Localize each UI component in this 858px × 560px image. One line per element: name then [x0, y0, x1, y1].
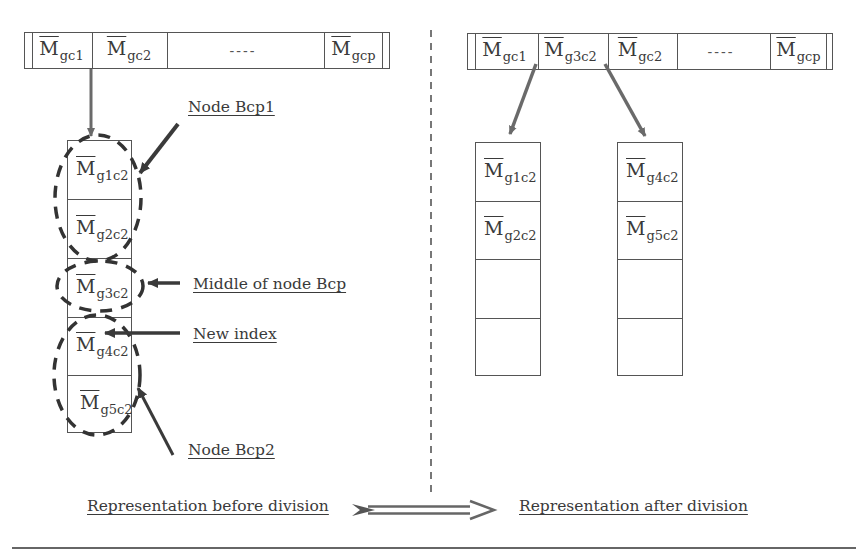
- after-right-row-2: Mg5c2: [618, 201, 682, 259]
- before-row-g5c2: Mg5c2: [68, 375, 131, 433]
- ellipsis: ----: [230, 43, 257, 59]
- before-cell-ellipsis: ----: [167, 33, 318, 68]
- after-left-row-1: Mg1c2: [476, 143, 540, 201]
- after-cell-gc1: Mgc1: [475, 34, 533, 69]
- label-new-index: New index: [193, 325, 277, 343]
- label-node-bcp2: Node Bcp2: [188, 441, 275, 459]
- after-left-row-3-empty: [476, 259, 540, 318]
- after-right-row-4-empty: [618, 318, 682, 376]
- pointer-arrow-right-node-icon: [605, 64, 645, 136]
- arrow-to-bcp2-icon: [138, 388, 173, 455]
- label-before-division: Representation before division: [87, 497, 329, 515]
- after-cell-ellipsis: ----: [677, 34, 764, 69]
- after-cell-g3c2: Mg3c2: [538, 34, 602, 69]
- arrow-to-bcp1-icon: [140, 124, 178, 173]
- before-cell-gcp: Mgcp: [324, 33, 382, 68]
- before-cell-gc2: Mgc2: [92, 33, 165, 68]
- bar-edge-left: [468, 34, 475, 69]
- after-right-row-1: Mg4c2: [618, 143, 682, 201]
- after-cell-gc2: Mgc2: [608, 34, 671, 69]
- mean-symbol: M: [107, 37, 126, 59]
- before-index-bar: Mgc1 Mgc2 ---- Mgcp: [24, 32, 390, 69]
- mean-symbol: M: [331, 37, 350, 59]
- label-after-division: Representation after division: [519, 497, 748, 515]
- after-left-row-2: Mg2c2: [476, 201, 540, 259]
- before-row-g4c2: Mg4c2: [68, 317, 131, 375]
- after-right-node: Mg4c2 Mg5c2: [617, 142, 683, 376]
- before-row-g3c2: Mg3c2: [68, 258, 131, 317]
- mean-symbol: M: [39, 37, 58, 59]
- after-right-row-3-empty: [618, 259, 682, 318]
- after-index-bar: Mgc1 Mg3c2 Mgc2 ---- Mgcp: [467, 33, 833, 70]
- before-row-g2c2: Mg2c2: [68, 199, 131, 258]
- bar-edge-right: [382, 33, 389, 68]
- bar-edge-left: [25, 33, 32, 68]
- bar-edge-right: [826, 34, 832, 69]
- after-left-row-4-empty: [476, 318, 540, 376]
- label-middle-of-node: Middle of node Bcp: [193, 275, 346, 293]
- transition-arrow-icon: [352, 501, 494, 519]
- ellipsis: ----: [708, 44, 735, 60]
- before-cell-gc1: Mgc1: [32, 33, 90, 68]
- before-node-column: Mg1c2 Mg2c2 Mg3c2 Mg4c2 Mg5c2: [67, 140, 132, 433]
- label-node-bcp1: Node Bcp1: [188, 98, 275, 116]
- after-cell-gcp: Mgcp: [770, 34, 826, 69]
- after-left-node: Mg1c2 Mg2c2: [475, 142, 541, 376]
- before-row-g1c2: Mg1c2: [68, 141, 131, 199]
- pointer-arrow-left-node-icon: [510, 64, 536, 134]
